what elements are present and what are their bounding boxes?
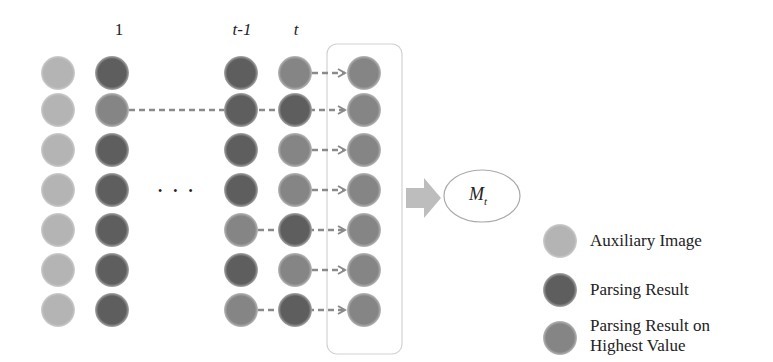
selected-node	[347, 253, 381, 287]
parsing-result-node	[278, 293, 312, 327]
selected-node	[347, 56, 381, 90]
legend-label-auxiliary: Auxiliary Image	[590, 231, 702, 251]
highest-value-node	[278, 173, 312, 207]
highest-value-node	[278, 56, 312, 90]
selected-node	[347, 93, 381, 127]
selected-node	[347, 293, 381, 327]
auxiliary-node	[41, 93, 75, 127]
legend-dot-parsing-result	[543, 273, 577, 307]
parsing-result-node	[224, 56, 258, 90]
parsing-result-node	[278, 93, 312, 127]
auxiliary-node	[41, 173, 75, 207]
highest-value-node	[278, 133, 312, 167]
column-label-t: t	[276, 20, 316, 40]
column-step-t-minus-1	[224, 56, 258, 327]
model-subscript: t	[484, 195, 487, 207]
parsing-result-node	[278, 213, 312, 247]
highest-value-node	[278, 253, 312, 287]
big-arrow-icon	[406, 178, 441, 218]
column-selected	[347, 56, 381, 327]
column-step-t	[278, 56, 312, 327]
diagram: 1 t-1 t • • • Mt Auxiliary Image Parsing…	[0, 0, 773, 362]
column-step-1	[95, 56, 129, 327]
selected-node	[347, 213, 381, 247]
parsing-result-node	[95, 253, 129, 287]
auxiliary-node	[41, 56, 75, 90]
model-label: Mt	[469, 184, 487, 207]
auxiliary-node	[41, 213, 75, 247]
auxiliary-node	[41, 253, 75, 287]
diagram-canvas	[0, 0, 773, 362]
auxiliary-node	[41, 133, 75, 167]
highest-value-node	[224, 213, 258, 247]
parsing-result-node	[224, 173, 258, 207]
selected-node	[347, 173, 381, 207]
selected-node	[347, 133, 381, 167]
column-label-1: 1	[99, 20, 139, 40]
ellipsis: • • •	[158, 184, 197, 199]
column-label-t-minus-1: t-1	[222, 20, 262, 40]
parsing-result-node	[95, 56, 129, 90]
legend-dot-highest-value	[543, 321, 577, 355]
parsing-result-node	[224, 93, 258, 127]
parsing-result-node	[95, 173, 129, 207]
model-symbol: M	[469, 184, 484, 204]
highest-value-node	[224, 293, 258, 327]
legend-dot-auxiliary	[543, 224, 577, 258]
parsing-result-node	[95, 213, 129, 247]
parsing-result-node	[224, 253, 258, 287]
auxiliary-node	[41, 293, 75, 327]
legend-label-parsing-result: Parsing Result	[590, 280, 689, 300]
column-auxiliary	[41, 56, 75, 327]
legend-label-highest-value: Parsing Result on Highest Value	[590, 316, 710, 356]
parsing-result-node	[95, 293, 129, 327]
parsing-result-node	[95, 133, 129, 167]
highest-value-node	[95, 93, 129, 127]
parsing-result-node	[224, 133, 258, 167]
